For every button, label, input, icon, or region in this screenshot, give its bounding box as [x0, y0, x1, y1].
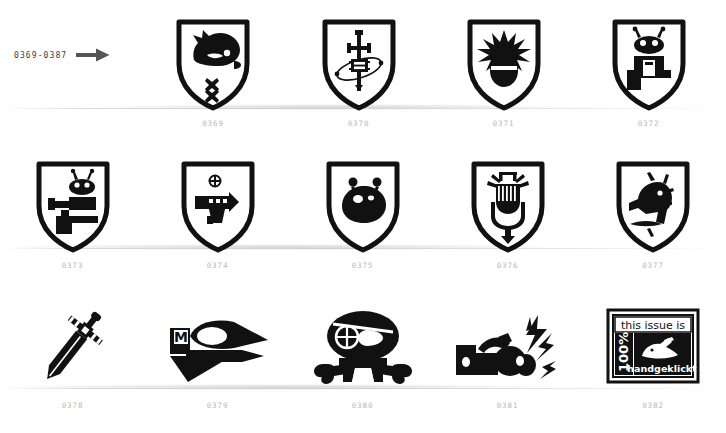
- shield-alien-raygun-icon[interactable]: [0, 156, 145, 256]
- row-2: 0373: [0, 140, 726, 272]
- catalog-item[interactable]: this issue is 100% handgekl: [580, 280, 726, 410]
- catalog-item[interactable]: 0374: [145, 140, 290, 270]
- sword-diagonal-icon[interactable]: [0, 296, 145, 396]
- catalog-item[interactable]: 0370: [286, 0, 431, 128]
- shield-blaster-pistol-icon[interactable]: [145, 156, 290, 256]
- item-caption: 0369: [202, 119, 224, 128]
- row-1: 0369: [0, 0, 726, 130]
- shield-robot-desk-icon[interactable]: [576, 14, 721, 114]
- handgeklickt-stamp-icon[interactable]: this issue is 100% handgekl: [580, 296, 726, 396]
- catalog-item[interactable]: 0372: [576, 0, 721, 128]
- pirate-skull-icon[interactable]: [290, 296, 435, 396]
- item-caption: 0373: [62, 261, 84, 270]
- rocket-ship-icon[interactable]: M: [145, 296, 290, 396]
- item-caption: 0377: [642, 261, 664, 270]
- item-caption: 0382: [642, 401, 664, 410]
- catalog-sheet: 0369-0387: [0, 0, 726, 433]
- catalog-item[interactable]: 0369: [140, 0, 286, 128]
- hand-mouse-lightning-icon[interactable]: [435, 296, 580, 396]
- catalog-item[interactable]: 0371: [431, 0, 576, 128]
- stamp-line-top: this issue is: [621, 319, 685, 332]
- item-caption: 0376: [497, 261, 519, 270]
- shield-sword-circuit-icon[interactable]: [286, 14, 431, 114]
- item-caption: 0380: [352, 401, 374, 410]
- shield-microphone-icon[interactable]: [435, 156, 580, 256]
- catalog-item[interactable]: 0375: [290, 140, 435, 270]
- item-caption: 0379: [207, 401, 229, 410]
- catalog-item[interactable]: 0377: [580, 140, 726, 270]
- shield-shouting-head-icon[interactable]: [580, 156, 726, 256]
- svg-text:M: M: [174, 329, 188, 345]
- catalog-item[interactable]: 0373: [0, 140, 145, 270]
- item-caption: 0381: [497, 401, 519, 410]
- stamp-line-bottom: handgeklickt: [627, 363, 697, 374]
- item-caption: 0370: [348, 119, 370, 128]
- item-caption: 0378: [62, 401, 84, 410]
- catalog-item[interactable]: 0376: [435, 140, 580, 270]
- item-caption: 0375: [352, 261, 374, 270]
- row-3: 0378 M: [0, 280, 726, 413]
- catalog-item[interactable]: 0378: [0, 280, 145, 410]
- catalog-item[interactable]: 0381: [435, 280, 580, 410]
- catalog-item[interactable]: M 0379: [145, 280, 290, 410]
- shield-blob-alien-icon[interactable]: [290, 156, 435, 256]
- item-caption: 0372: [638, 119, 660, 128]
- item-caption: 0374: [207, 261, 229, 270]
- shield-badger-head-icon[interactable]: [140, 14, 286, 114]
- catalog-item[interactable]: 0380: [290, 280, 435, 410]
- item-caption: 0371: [493, 119, 515, 128]
- shield-bomb-blast-icon[interactable]: [431, 14, 576, 114]
